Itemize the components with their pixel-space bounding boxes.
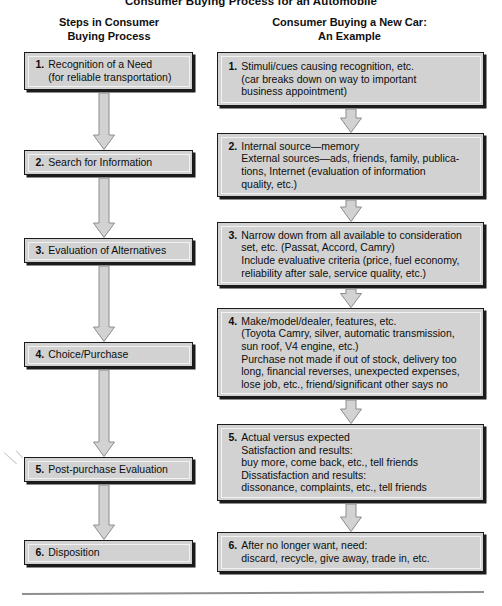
down-arrow-icon — [340, 400, 362, 424]
example-box-3[interactable]: 3. Narrow down from all available to con… — [217, 222, 484, 286]
step-box-6-body: 6. Disposition — [29, 546, 189, 559]
step-label-4: Choice/Purchase — [48, 348, 128, 361]
example-box-1-inner: 1. Stimuli/cues causing recognition, etc… — [221, 56, 481, 103]
step-box-4-inner: 4. Choice/Purchase — [28, 346, 190, 364]
step-box-3-body: 3. Evaluation of Alternatives — [29, 244, 189, 257]
example-number-2: 2. — [229, 140, 242, 153]
example-number-6: 6. — [229, 539, 242, 552]
step-box-5-body: 5. Post-purchase Evaluation — [29, 463, 189, 476]
example-text-2: Internal source—memory External sources—… — [241, 140, 459, 190]
example-box-4-body: 4. Make/model/dealer, features, etc. (To… — [222, 315, 480, 391]
example-number-1: 1. — [229, 60, 242, 73]
example-number-3: 3. — [229, 229, 242, 242]
down-arrow-icon — [340, 200, 362, 222]
step-box-6[interactable]: 6. Disposition — [24, 540, 193, 565]
step-number-3: 3. — [36, 244, 49, 257]
step-label-3: Evaluation of Alternatives — [48, 244, 166, 257]
down-arrow-icon — [93, 178, 115, 238]
down-arrow-icon — [93, 266, 115, 342]
step-box-5[interactable]: 5. Post-purchase Evaluation — [24, 457, 193, 482]
step-number-4: 4. — [36, 348, 49, 361]
step-box-2[interactable]: 2. Search for Information — [24, 150, 193, 175]
example-box-4-inner: 4. Make/model/dealer, features, etc. (To… — [221, 312, 481, 394]
example-text-1: Stimuli/cues causing recognition, etc. (… — [241, 60, 416, 98]
flow-arrow-right-4-icon — [340, 400, 362, 424]
down-arrow-icon — [93, 370, 115, 457]
step-label-5: Post-purchase Evaluation — [48, 463, 168, 476]
example-box-2-body: 2. Internal source—memory External sourc… — [222, 140, 480, 190]
bottom-divider — [22, 591, 484, 594]
figure-title: Consumer Buying Process for an Automobil… — [0, 0, 502, 7]
step-box-3[interactable]: 3. Evaluation of Alternatives — [24, 238, 193, 263]
flow-arrow-right-3-icon — [340, 289, 362, 308]
step-box-3-inner: 3. Evaluation of Alternatives — [28, 242, 190, 260]
example-text-4: Make/model/dealer, features, etc. (Toyot… — [241, 315, 459, 391]
down-arrow-icon — [340, 504, 362, 532]
example-text-6: After no longer want, need: discard, rec… — [241, 539, 429, 564]
example-text-5: Actual versus expected Satisfaction and … — [241, 431, 427, 494]
example-box-6[interactable]: 6. After no longer want, need: discard, … — [217, 532, 484, 572]
example-box-3-body: 3. Narrow down from all available to con… — [222, 229, 480, 279]
column-heading-left: Steps in Consumer Buying Process — [18, 16, 200, 43]
flow-arrow-right-1-icon — [340, 109, 362, 133]
step-label-6: Disposition — [48, 546, 99, 559]
example-box-1[interactable]: 1. Stimuli/cues causing recognition, etc… — [217, 52, 484, 106]
step-box-1[interactable]: 1. Recognition of a Need (for reliable t… — [24, 52, 193, 90]
step-box-1-body: 1. Recognition of a Need (for reliable t… — [29, 58, 189, 83]
down-arrow-icon — [340, 109, 362, 133]
flow-arrow-left-5-icon — [93, 485, 115, 540]
example-box-3-inner: 3. Narrow down from all available to con… — [221, 226, 481, 283]
flow-arrow-left-2-icon — [93, 178, 115, 238]
step-box-4[interactable]: 4. Choice/Purchase — [24, 342, 193, 367]
example-box-2-inner: 2. Internal source—memory External sourc… — [221, 137, 481, 194]
step-box-4-body: 4. Choice/Purchase — [29, 348, 189, 361]
column-heading-right: Consumer Buying a New Car: An Example — [212, 16, 487, 43]
example-box-5[interactable]: 5. Actual versus expected Satisfaction a… — [217, 424, 484, 501]
step-box-5-inner: 5. Post-purchase Evaluation — [28, 461, 190, 479]
example-box-6-body: 6. After no longer want, need: discard, … — [222, 539, 480, 564]
down-arrow-icon — [340, 289, 362, 308]
step-label-2: Search for Information — [48, 156, 152, 169]
scan-artifact-mark — [4, 448, 30, 474]
step-number-1: 1. — [36, 58, 49, 71]
example-box-4[interactable]: 4. Make/model/dealer, features, etc. (To… — [217, 308, 484, 397]
flow-arrow-right-5-icon — [340, 504, 362, 532]
example-box-6-inner: 6. After no longer want, need: discard, … — [221, 536, 481, 569]
step-box-2-body: 2. Search for Information — [29, 156, 189, 169]
flow-arrow-left-4-icon — [93, 370, 115, 457]
step-number-2: 2. — [36, 156, 49, 169]
step-box-2-inner: 2. Search for Information — [28, 154, 190, 172]
example-box-1-body: 1. Stimuli/cues causing recognition, etc… — [222, 60, 480, 98]
down-arrow-icon — [93, 485, 115, 540]
down-arrow-icon — [93, 93, 115, 150]
step-number-6: 6. — [36, 546, 49, 559]
example-text-3: Narrow down from all available to consid… — [241, 229, 462, 279]
step-box-6-inner: 6. Disposition — [28, 544, 190, 562]
step-label-1: Recognition of a Need (for reliable tran… — [48, 58, 171, 83]
flow-arrow-left-3-icon — [93, 266, 115, 342]
example-box-2[interactable]: 2. Internal source—memory External sourc… — [217, 133, 484, 197]
step-box-1-inner: 1. Recognition of a Need (for reliable t… — [28, 56, 190, 87]
flow-arrow-left-1-icon — [93, 93, 115, 150]
example-number-5: 5. — [229, 431, 242, 444]
flow-arrow-right-2-icon — [340, 200, 362, 222]
example-box-5-body: 5. Actual versus expected Satisfaction a… — [222, 431, 480, 494]
step-number-5: 5. — [36, 463, 49, 476]
example-number-4: 4. — [229, 315, 242, 328]
example-box-5-inner: 5. Actual versus expected Satisfaction a… — [221, 428, 481, 498]
